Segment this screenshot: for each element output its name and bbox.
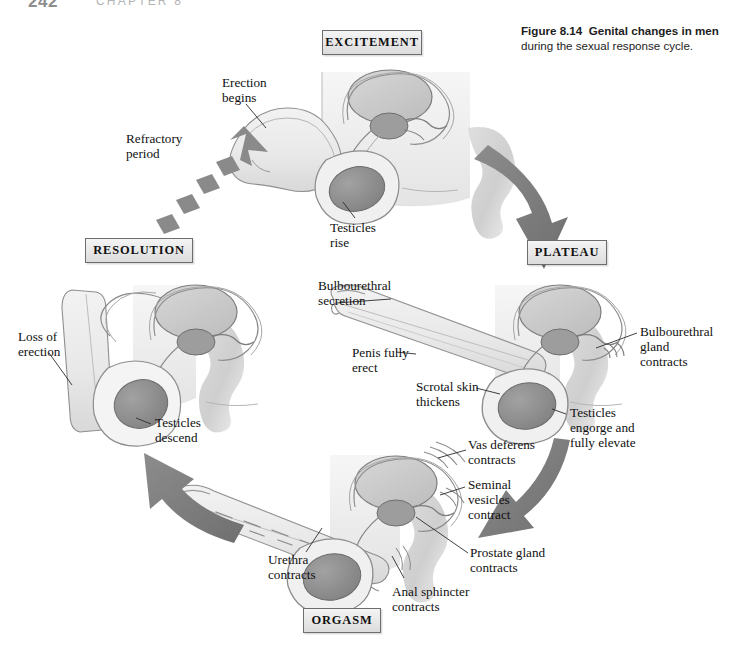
figure-page: 242 CHAPTER 8 Figure 8.14 Genital change…	[0, 0, 732, 649]
label-seminal-vesicles-contract: Seminal vesicles contract	[468, 477, 511, 522]
label-testicles-rise: Testicles rise	[330, 220, 376, 250]
label-testicles-descend: Testicles descend	[155, 415, 201, 445]
label-loss-of-erection: Loss of erection	[18, 329, 60, 359]
figure-artwork	[0, 0, 732, 649]
label-refractory-period: Refractory period	[126, 131, 182, 161]
label-scrotal-skin-thickens: Scrotal skin thickens	[416, 379, 479, 409]
label-testicles-engorge: Testicles engorge and fully elevate	[570, 405, 636, 450]
label-penis-fully-erect: Penis fully erect	[352, 345, 409, 375]
phase-label-orgasm[interactable]: ORGASM	[303, 608, 381, 633]
label-anal-sphincter-contracts: Anal sphincter contracts	[392, 584, 469, 614]
label-prostate-gland-contracts: Prostate gland contracts	[470, 545, 545, 575]
excitement-illustration	[230, 70, 516, 239]
label-bulbourethral-gland-contracts: Bulbourethral gland contracts	[640, 324, 713, 369]
label-urethra-contracts: Urethra contracts	[268, 552, 316, 582]
phase-label-resolution[interactable]: RESOLUTION	[85, 238, 193, 263]
label-vas-deferens-contracts: Vas deferens contracts	[468, 437, 535, 467]
phase-label-excitement[interactable]: EXCITEMENT	[322, 30, 422, 55]
label-bulbourethral-secretion: Bulbourethral secretion	[318, 278, 391, 308]
phase-label-plateau[interactable]: PLATEAU	[527, 240, 607, 265]
label-erection-begins: Erection begins	[222, 75, 267, 105]
